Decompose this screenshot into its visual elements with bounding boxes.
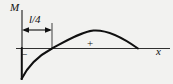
dimension-arrowhead-right [45,27,52,33]
dimension-arrowhead-left [22,27,29,33]
negative-region-sign: − [21,49,27,60]
m-axis-label: M [10,2,19,13]
bending-moment-figure: M l/4 x − + [0,0,173,84]
dimension-label: l/4 [29,14,41,25]
positive-region-sign: + [87,38,93,49]
x-axis-label: x [156,46,161,57]
moment-curve [22,30,139,79]
